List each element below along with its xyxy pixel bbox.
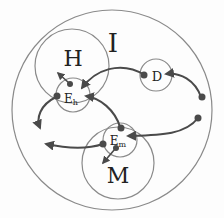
diagram-svg: I H D M Eh Em [0,0,224,218]
label-m: M [107,163,130,188]
label-i: I [108,28,118,58]
dot-em-top [118,125,125,132]
dot-d [141,72,148,79]
diagram-canvas: I H D M Eh Em [0,0,224,218]
dot-ext-upper [199,94,206,101]
label-d: D [152,69,162,84]
dot-eh-left [54,93,61,100]
arrow-d-to-eh [82,68,145,88]
dot-eh-top [67,81,73,87]
arrow-em-to-left [46,144,103,148]
dot-ext-lower [195,115,202,122]
dot-em-left [100,141,107,148]
label-h: H [63,46,82,71]
arrow-em-to-eh [86,96,120,127]
label-eh: Eh [64,92,78,107]
label-em: Em [110,134,127,149]
arrow-eh-to-left [39,97,56,128]
